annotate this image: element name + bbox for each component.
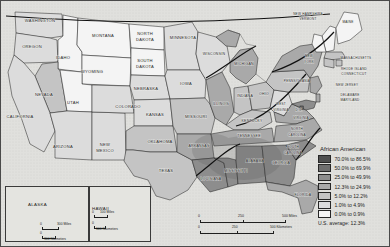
map-figure: WASHINGTON OREGON IDAHO MONTANA WYOMING … xyxy=(0,0,390,247)
map-frame xyxy=(0,0,390,247)
